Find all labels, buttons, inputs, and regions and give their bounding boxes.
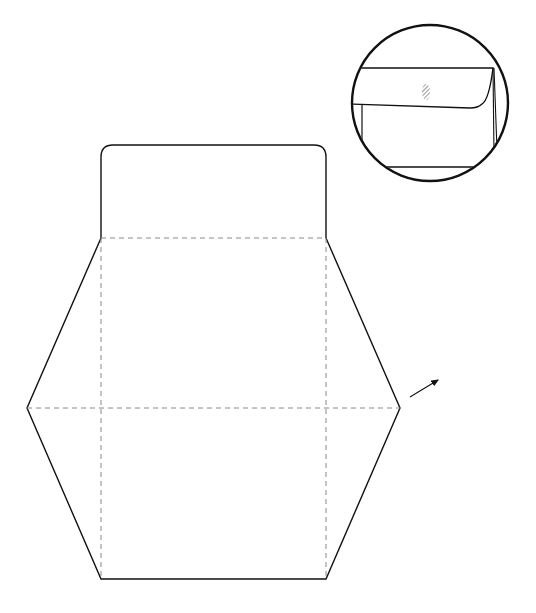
envelope-diagram: [0, 0, 536, 613]
arrow-icon: [410, 380, 438, 397]
envelope-template-drawing: [0, 0, 536, 613]
envelope-flap: [101, 145, 326, 238]
seal-mark-icon: [422, 84, 430, 100]
detail-inset: [350, 25, 508, 181]
fold-lines: [27, 238, 400, 579]
